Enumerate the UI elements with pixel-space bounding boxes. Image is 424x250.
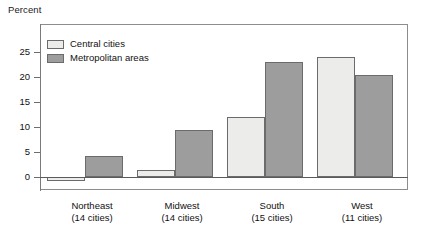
y-tick-label-0: 0 [8,172,30,182]
bar-northeast-metropolitan-areas [85,156,123,177]
bar-west-central-cities [317,57,355,177]
category-label-midwest: Midwest (14 cities) [137,200,227,224]
category-sub-west: (11 cities) [317,212,407,224]
bar-midwest-metropolitan-areas [175,130,213,178]
y-axis-line [40,24,41,191]
bar-south-central-cities [227,117,265,177]
legend-label-central-cities: Central cities [70,39,125,49]
category-sub-south: (15 cities) [227,212,317,224]
legend-item-metropolitan-areas: Metropolitan areas [47,52,149,64]
category-name-midwest: Midwest [165,200,200,211]
bar-west-metropolitan-areas [355,75,393,178]
y-tick-label-20: 20 [8,72,30,82]
percent-bar-chart: Percent 25 20 15 10 5 0 Central cities M… [0,0,424,250]
legend-label-metropolitan-areas: Metropolitan areas [70,53,149,63]
category-sub-midwest: (14 cities) [137,212,227,224]
category-name-northeast: Northeast [71,200,112,211]
y-tick-mark-25 [34,52,40,53]
y-tick-mark-5 [34,152,40,153]
y-tick-label-5: 5 [8,147,30,157]
y-tick-mark-20 [34,77,40,78]
category-label-northeast: Northeast (14 cities) [47,200,137,224]
y-tick-mark-10 [34,127,40,128]
legend-swatch-icon-central-cities [47,40,64,49]
y-axis-title: Percent [8,4,41,15]
category-sub-northeast: (14 cities) [47,212,137,224]
category-label-west: West (11 cities) [317,200,407,224]
category-name-south: South [260,200,285,211]
zero-baseline [40,177,408,178]
category-label-south: South (15 cities) [227,200,317,224]
y-tick-mark-15 [34,102,40,103]
y-tick-label-10: 10 [8,122,30,132]
y-tick-label-25: 25 [8,47,30,57]
bar-south-metropolitan-areas [265,62,303,177]
y-tick-label-15: 15 [8,97,30,107]
chart-legend: Central cities Metropolitan areas [47,38,149,66]
bar-midwest-central-cities [137,170,175,177]
category-name-west: West [351,200,372,211]
legend-item-central-cities: Central cities [47,38,149,50]
legend-swatch-icon-metropolitan-areas [47,54,64,63]
